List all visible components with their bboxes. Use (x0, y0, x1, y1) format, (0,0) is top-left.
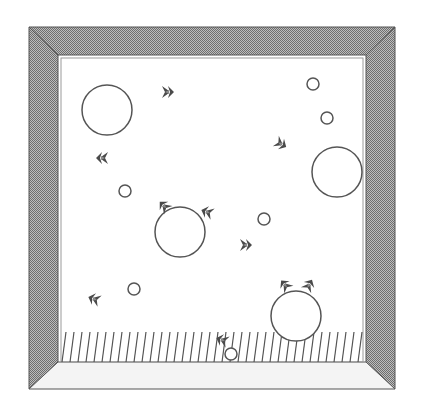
hatch-line (62, 332, 66, 362)
hatch-line (190, 332, 194, 362)
big-circle-obstacle (82, 85, 132, 135)
creature-icon[interactable] (273, 136, 289, 152)
wall-left (29, 27, 58, 389)
hatch-line (246, 332, 250, 362)
small-circle-pellet (225, 348, 237, 360)
small-circle-pellet (128, 283, 140, 295)
hatch-line (70, 332, 74, 362)
hatch-line (334, 332, 338, 362)
big-circle-obstacle (155, 207, 205, 257)
creature-icon[interactable] (86, 291, 101, 306)
hatch-line (118, 332, 122, 362)
hatch-line (110, 332, 114, 362)
hatch-line (238, 332, 242, 362)
hatch-line (158, 332, 162, 362)
wall-top (29, 27, 395, 55)
arena-frame (29, 27, 395, 389)
small-circle-pellet (258, 213, 270, 225)
small-circle-pellet (307, 78, 319, 90)
small-circle-pellet (119, 185, 131, 197)
hatch-line (150, 332, 154, 362)
hatch-line (182, 332, 186, 362)
hatch-line (142, 332, 146, 362)
hatch-line (358, 332, 362, 362)
creature-icon[interactable] (240, 239, 252, 251)
hatch-line (254, 332, 258, 362)
creature-icon[interactable] (199, 204, 214, 219)
hatch-line (166, 332, 170, 362)
hatch-line (318, 332, 322, 362)
hatch-line (326, 332, 330, 362)
hatch-line (214, 332, 218, 362)
wall-bottom (29, 362, 395, 389)
floor-hatch (62, 332, 362, 362)
creature-icon[interactable] (96, 152, 108, 164)
hatch-line (94, 332, 98, 362)
small-circle-pellet (321, 112, 333, 124)
creature-icon[interactable] (162, 86, 174, 98)
hatch-line (342, 332, 346, 362)
hatch-line (86, 332, 90, 362)
wall-right (366, 27, 395, 389)
hatch-line (126, 332, 130, 362)
hatch-line (78, 332, 82, 362)
hatch-line (270, 332, 274, 362)
big-circle-obstacle (312, 147, 362, 197)
hatch-line (350, 332, 354, 362)
game-arena[interactable] (0, 0, 422, 404)
hatch-line (262, 332, 266, 362)
hatch-line (102, 332, 106, 362)
hatch-line (206, 332, 210, 362)
hatch-line (134, 332, 138, 362)
big-circle-obstacle (271, 291, 321, 341)
hatch-line (198, 332, 202, 362)
hatch-line (174, 332, 178, 362)
obstacles (82, 78, 362, 360)
creature-icon[interactable] (301, 277, 317, 293)
